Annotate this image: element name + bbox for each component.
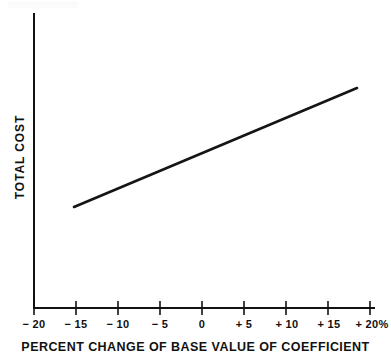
data-line-segment	[74, 88, 357, 207]
x-tick-label-10: + 10	[276, 318, 299, 330]
x-tick-label-0: 0	[199, 318, 205, 330]
x-tick-label--10: − 10	[107, 318, 130, 330]
x-tick-label-5: + 5	[236, 318, 253, 330]
chart-figure: − 20 − 15 − 10 − 5 0 + 5 + 10 + 15 + 20%…	[0, 0, 391, 359]
x-tick-label--20: − 20	[23, 318, 46, 330]
y-axis-title: TOTAL COST	[13, 97, 27, 217]
x-tick-label--5: − 5	[152, 318, 169, 330]
x-tick-label-20: + 20%	[356, 318, 389, 330]
x-tick-label-15: + 15	[318, 318, 341, 330]
data-series-total-cost	[74, 88, 357, 207]
x-axis-title: PERCENT CHANGE OF BASE VALUE OF COEFFICI…	[0, 340, 391, 354]
x-tick-label--15: − 15	[65, 318, 88, 330]
plot-area	[0, 0, 391, 359]
